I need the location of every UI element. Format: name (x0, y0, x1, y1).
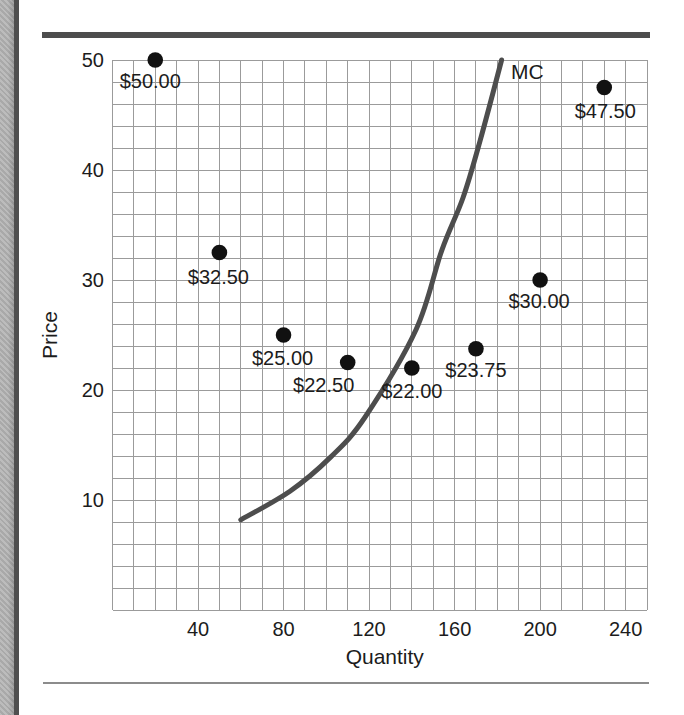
left-margin-texture-bar (0, 0, 14, 715)
top-horizontal-rule (42, 32, 650, 38)
y-tick-label: 50 (82, 49, 104, 71)
x-tick-label: 160 (438, 618, 471, 640)
point-label: $23.75 (445, 359, 506, 381)
price-quantity-scatter-chart: 40801201602002401020304050QuantityPriceM… (0, 0, 684, 715)
figure-page: 40801201602002401020304050QuantityPriceM… (0, 0, 684, 715)
data-point (596, 80, 612, 96)
data-point (532, 272, 548, 288)
point-label: $22.00 (381, 380, 442, 402)
x-tick-label: 120 (352, 618, 385, 640)
data-point (404, 360, 420, 376)
mc-curve-label: MC (511, 60, 544, 83)
bottom-horizontal-rule (43, 682, 649, 684)
point-label: $50.00 (120, 70, 181, 92)
x-tick-label: 80 (272, 618, 294, 640)
x-axis-title: Quantity (346, 645, 425, 668)
y-axis-title: Price (38, 311, 61, 359)
mc-curve (241, 60, 502, 520)
x-tick-label: 240 (609, 618, 642, 640)
left-vertical-rule (14, 0, 19, 715)
y-tick-label: 40 (82, 159, 104, 181)
data-point (147, 52, 163, 68)
x-tick-label: 40 (187, 618, 209, 640)
grid (113, 60, 648, 610)
point-label: $47.50 (575, 100, 636, 122)
point-label: $25.00 (252, 347, 313, 369)
point-label: $32.50 (188, 266, 249, 288)
data-point (340, 355, 356, 371)
y-tick-label: 30 (82, 269, 104, 291)
data-point (468, 341, 484, 357)
point-label: $30.00 (509, 290, 570, 312)
x-tick-label: 200 (523, 618, 556, 640)
y-tick-label: 10 (82, 489, 104, 511)
data-point (276, 327, 292, 343)
y-tick-label: 20 (82, 379, 104, 401)
point-label: $22.50 (293, 374, 354, 396)
data-point (212, 245, 228, 261)
